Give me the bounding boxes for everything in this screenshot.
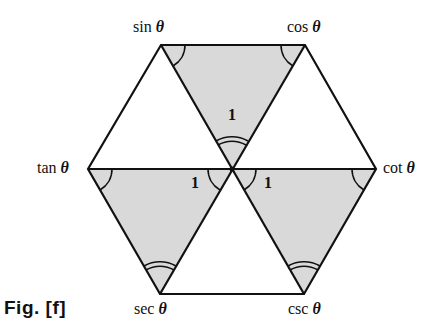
shaded-triangle-bottom-left bbox=[88, 169, 232, 294]
label-csc: csc θ bbox=[288, 300, 321, 318]
label-cot: cot θ bbox=[383, 159, 415, 177]
unit-label-top: 1 bbox=[228, 106, 236, 124]
figure-caption: Fig. [f] bbox=[4, 297, 66, 319]
label-tan: tan θ bbox=[37, 159, 69, 177]
label-cos: cos θ bbox=[287, 18, 321, 36]
center-point bbox=[230, 167, 235, 172]
label-sin: sin θ bbox=[133, 18, 164, 36]
unit-label-left: 1 bbox=[191, 174, 199, 192]
label-sec: sec θ bbox=[134, 300, 167, 318]
unit-label-right: 1 bbox=[264, 174, 272, 192]
shaded-triangle-bottom-right bbox=[232, 169, 376, 294]
